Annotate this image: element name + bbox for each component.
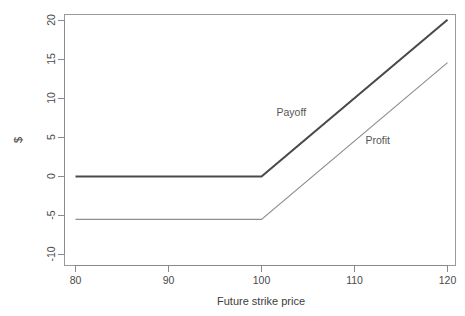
x-tick-label-90: 90 xyxy=(163,274,175,286)
payoff-profit-line-chart: 20 15 10 5 0 -5 -10 80 90 100 110 120 Fu… xyxy=(0,0,465,316)
x-tick-label-80: 80 xyxy=(70,274,82,286)
y-tick-label-0: 0 xyxy=(45,173,57,179)
y-tick-label-15: 15 xyxy=(45,53,57,65)
x-axis: 80 90 100 110 120 xyxy=(70,266,457,287)
chart-container: 20 15 10 5 0 -5 -10 80 90 100 110 120 Fu… xyxy=(0,0,465,316)
x-tick-label-110: 110 xyxy=(346,274,363,286)
x-tick-label-100: 100 xyxy=(253,274,271,286)
y-tick-label-20: 20 xyxy=(45,14,57,26)
x-axis-title: Future strike price xyxy=(217,295,305,307)
y-axis: 20 15 10 5 0 -5 -10 xyxy=(45,14,65,262)
plot-frame xyxy=(65,15,456,266)
payoff-series-line xyxy=(76,20,448,177)
y-tick-label-5: 5 xyxy=(45,134,57,140)
profit-series-line xyxy=(76,63,448,220)
profit-series-label: Profit xyxy=(365,134,390,146)
payoff-series-label: Payoff xyxy=(276,106,306,118)
y-tick-label-10: 10 xyxy=(45,92,57,104)
y-tick-label-neg5: -5 xyxy=(45,210,57,219)
y-tick-label-neg10: -10 xyxy=(45,246,57,261)
y-axis-title: $ xyxy=(12,137,24,143)
x-tick-label-120: 120 xyxy=(439,274,457,286)
